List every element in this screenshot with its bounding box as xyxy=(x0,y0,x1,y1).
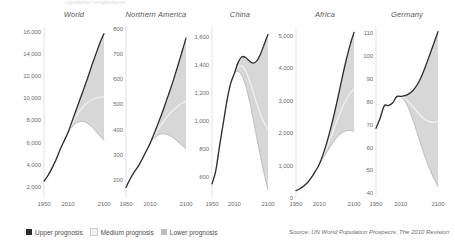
source-note: Source: UN World Population Prospects: T… xyxy=(289,229,449,235)
lower-prognosis-line xyxy=(296,130,354,190)
legend-swatch-icon xyxy=(26,229,32,235)
prognosis-band xyxy=(376,32,438,187)
x-tick-label: 2010 xyxy=(62,201,75,207)
y-tick-label: 800 xyxy=(199,146,209,152)
y-tick-label: 1,400 xyxy=(194,62,209,68)
y-tick-label: 2,000 xyxy=(278,130,293,136)
lower-prognosis-line xyxy=(44,121,104,181)
lower-prognosis-line xyxy=(126,134,186,188)
x-axis-ticks: 195020102100 xyxy=(296,201,354,213)
x-tick-label: 2010 xyxy=(228,201,241,207)
figure-top-title: ...opulation projections xyxy=(60,0,125,5)
chart-panel-africa: Africa01,0002,0003,0004,0005,00019502010… xyxy=(268,10,360,222)
y-tick-label: 500 xyxy=(113,101,123,107)
x-tick-label: 2010 xyxy=(144,201,157,207)
x-tick-label: 2010 xyxy=(394,201,407,207)
y-tick-label: 10,000 xyxy=(23,95,41,101)
plot-area xyxy=(212,26,268,198)
plot-area xyxy=(296,26,354,198)
plot-area xyxy=(376,26,438,198)
y-axis-ticks: 200300400500600700800 xyxy=(104,26,123,198)
x-tick-label: 1950 xyxy=(206,201,219,207)
legend-item: Medium prognosis xyxy=(90,228,154,236)
legend-item: Upper prognosis xyxy=(26,229,83,236)
y-axis-ticks: 2,0004,0006,0008,00010,00012,00014,00016… xyxy=(14,26,41,198)
y-tick-label: 110 xyxy=(364,30,373,36)
x-axis-ticks: 195020102100 xyxy=(126,201,186,213)
x-tick-label: 1950 xyxy=(370,201,383,207)
y-tick-label: 4,000 xyxy=(26,162,41,168)
x-tick-label: 1950 xyxy=(290,201,303,207)
x-tick-label: 2100 xyxy=(432,201,445,207)
y-axis-ticks: 405060708090100110 xyxy=(356,26,373,198)
x-tick-label: 2010 xyxy=(313,201,326,207)
panel-grid: World2,0004,0006,0008,00010,00012,00014,… xyxy=(0,10,455,222)
y-tick-label: 400 xyxy=(113,127,123,133)
chart-panel-world: World2,0004,0006,0008,00010,00012,00014,… xyxy=(14,10,110,222)
legend-swatch-icon xyxy=(90,228,98,236)
y-tick-label: 1,000 xyxy=(278,163,293,169)
plot-area xyxy=(126,26,186,198)
y-tick-label: 600 xyxy=(199,174,209,180)
legend-item: Lower prognosis xyxy=(161,229,218,236)
y-tick-label: 1,600 xyxy=(194,34,209,40)
prognosis-band xyxy=(126,38,186,187)
y-tick-label: 2,000 xyxy=(26,184,41,190)
legend-label: Medium prognosis xyxy=(101,229,154,236)
chart-panel-northern-america: Northern America200300400500600700800195… xyxy=(104,10,192,222)
y-tick-label: 200 xyxy=(113,177,123,183)
plot-area xyxy=(44,26,104,198)
panel-title: Germany xyxy=(362,10,452,19)
legend-swatch-icon xyxy=(161,229,167,235)
chart-panel-china: China6008001,0001,2001,4001,600195020102… xyxy=(186,10,274,222)
y-tick-label: 50 xyxy=(367,167,373,173)
y-axis-ticks: 6008001,0001,2001,4001,600 xyxy=(186,26,209,198)
y-tick-label: 300 xyxy=(113,152,123,158)
legend-label: Upper prognosis xyxy=(35,229,83,236)
chart-legend: Upper prognosisMedium prognosisLower pro… xyxy=(26,228,218,236)
chart-panel-germany: Germany405060708090100110195020102100 xyxy=(356,10,444,222)
y-tick-label: 5,000 xyxy=(278,33,293,39)
y-tick-label: 700 xyxy=(113,51,123,57)
y-tick-label: 70 xyxy=(367,122,373,128)
y-tick-label: 12,000 xyxy=(23,73,41,79)
y-tick-label: 90 xyxy=(367,76,373,82)
y-tick-label: 600 xyxy=(113,76,123,82)
y-axis-ticks: 01,0002,0003,0004,0005,000 xyxy=(268,26,293,198)
y-tick-label: 80 xyxy=(367,99,373,105)
y-tick-label: 16,000 xyxy=(23,29,41,35)
x-tick-label: 1950 xyxy=(38,201,51,207)
y-tick-label: 40 xyxy=(367,190,373,196)
prognosis-band xyxy=(296,32,354,190)
x-axis-ticks: 195020102100 xyxy=(212,201,268,213)
y-tick-label: 100 xyxy=(363,53,373,59)
y-tick-label: 1,200 xyxy=(194,90,209,96)
population-projection-figure: ...opulation projections World2,0004,000… xyxy=(0,0,455,245)
y-tick-label: 800 xyxy=(113,26,123,32)
y-tick-label: 14,000 xyxy=(23,51,41,57)
x-tick-label: 1950 xyxy=(120,201,133,207)
x-axis-ticks: 195020102100 xyxy=(376,201,438,213)
y-tick-label: 4,000 xyxy=(278,65,293,71)
y-tick-label: 6,000 xyxy=(26,140,41,146)
legend-label: Lower prognosis xyxy=(170,229,218,236)
y-tick-label: 8,000 xyxy=(26,117,41,123)
y-tick-label: 60 xyxy=(367,145,373,151)
x-axis-ticks: 195020102100 xyxy=(44,201,104,213)
y-tick-label: 3,000 xyxy=(278,98,293,104)
y-tick-label: 1,000 xyxy=(194,118,209,124)
